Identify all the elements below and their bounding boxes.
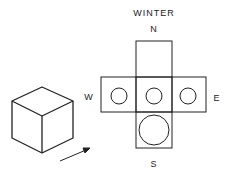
direction-arrow-icon — [60, 148, 90, 161]
net-face-east — [172, 77, 206, 112]
net-face-south — [136, 112, 172, 148]
winter-diagram: WINTER N S W E — [0, 0, 232, 178]
diagram-title: WINTER — [133, 8, 175, 18]
sun-circle-top — [146, 88, 162, 104]
net-face-north — [136, 41, 172, 77]
sun-circle-east — [180, 88, 196, 104]
cube-net — [101, 41, 206, 148]
cube-icon — [12, 87, 73, 153]
sun-circle-south — [139, 115, 169, 145]
sun-circle-west — [111, 88, 127, 104]
north-label: N — [150, 24, 158, 34]
south-label: S — [150, 159, 157, 169]
east-label: E — [213, 93, 220, 103]
west-label: W — [84, 92, 94, 102]
net-face-top — [136, 77, 172, 112]
net-face-west — [101, 77, 136, 112]
